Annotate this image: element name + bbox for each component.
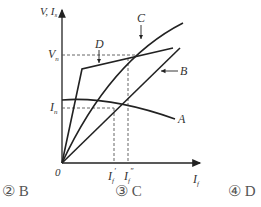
option-3[interactable]: ③ C: [115, 182, 142, 200]
y-axis-label: V, Is: [40, 5, 57, 19]
characteristic-diagram: V, Is If 0 Vn In If′ If″ A B C D: [0, 0, 261, 207]
option-marker: ③: [115, 183, 128, 199]
label-c: C: [137, 11, 146, 25]
option-text: C: [132, 183, 142, 199]
option-4[interactable]: ④ D: [228, 182, 256, 200]
option-text: D: [245, 183, 256, 199]
curve-c: [62, 23, 183, 163]
origin-label: 0: [55, 166, 61, 178]
label-d: D: [94, 37, 104, 51]
vn-label: Vn: [48, 47, 59, 63]
option-marker: ④: [228, 183, 241, 199]
label-a: A: [177, 112, 186, 126]
option-text: B: [19, 183, 29, 199]
curve-a: [62, 99, 175, 119]
curve-b: [62, 48, 180, 163]
label-b: B: [180, 64, 188, 78]
option-2[interactable]: ② B: [2, 182, 29, 200]
x-axis-label: If: [192, 172, 200, 188]
in-label: In: [49, 100, 58, 116]
option-marker: ②: [2, 183, 15, 199]
